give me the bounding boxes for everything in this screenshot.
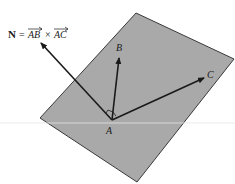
equation-vec1: AB [27,29,40,40]
point-a-label: A [105,125,113,136]
diagram-canvas: A B C N = AB × AC [0,0,235,184]
equation-label: N = AB × AC [8,27,68,40]
point-b-label: B [116,42,122,53]
plane [40,13,234,182]
equation-times: × [45,29,51,40]
equation-equals: = [19,29,25,40]
point-c-label: C [207,69,214,80]
equation-lhs: N [8,28,16,40]
